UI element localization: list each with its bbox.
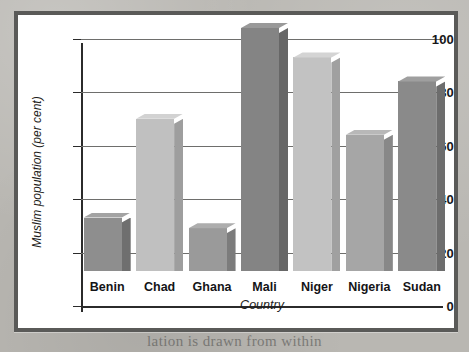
- bar-benin[interactable]: [84, 218, 131, 271]
- bar-3d-body: [241, 28, 288, 271]
- bar-side-face: [384, 135, 393, 271]
- bar-nigeria[interactable]: [346, 135, 393, 271]
- bar-side-face: [279, 28, 288, 271]
- x-axis-title: Country: [81, 298, 443, 312]
- bar-front-face: [293, 57, 331, 271]
- bar-ghana[interactable]: [189, 228, 236, 271]
- bar-mali[interactable]: [241, 28, 288, 271]
- bar-front-face: [241, 28, 279, 271]
- bar-side-face: [174, 119, 183, 271]
- x-tick-label-nigeria: Nigeria: [343, 280, 395, 294]
- page-bleed-text: lation is drawn from within: [0, 333, 469, 352]
- bar-front-face: [346, 135, 384, 271]
- bar-3d-body: [136, 119, 183, 271]
- bars-group: BeninChadGhanaMaliNigerNigeriaSudan: [81, 15, 443, 328]
- y-tick-40: [73, 199, 81, 200]
- x-tick-label-niger: Niger: [291, 280, 343, 294]
- x-tick-label-sudan: Sudan: [396, 280, 448, 294]
- page-background: 020406080100 Muslim population (per cent…: [0, 0, 469, 352]
- y-tick-100: [73, 39, 81, 40]
- bar-chad[interactable]: [136, 119, 183, 271]
- bar-front-face: [84, 218, 122, 271]
- bar-sudan[interactable]: [398, 81, 445, 271]
- x-tick-label-chad: Chad: [133, 280, 185, 294]
- y-tick-60: [73, 146, 81, 147]
- y-tick-20: [73, 253, 81, 254]
- bar-niger[interactable]: [293, 57, 340, 271]
- x-tick-label-ghana: Ghana: [186, 280, 238, 294]
- bar-3d-body: [84, 218, 131, 271]
- bar-side-face: [122, 218, 131, 271]
- y-axis-title: Muslim population (per cent): [30, 67, 44, 277]
- bar-3d-body: [189, 228, 236, 271]
- bar-front-face: [136, 119, 174, 271]
- bar-side-face: [436, 81, 445, 271]
- bar-front-face: [398, 81, 436, 271]
- y-tick-80: [73, 92, 81, 93]
- bar-3d-body: [293, 57, 340, 271]
- y-tick-0: [73, 306, 81, 307]
- bar-3d-body: [346, 135, 393, 271]
- bar-side-face: [331, 57, 340, 271]
- bar-side-face: [227, 228, 236, 271]
- bar-front-face: [189, 228, 227, 271]
- x-tick-label-mali: Mali: [238, 280, 290, 294]
- x-tick-label-benin: Benin: [81, 280, 133, 294]
- bar-3d-body: [398, 81, 445, 271]
- chart-figure-frame: 020406080100 Muslim population (per cent…: [14, 11, 458, 332]
- plot-area: 020406080100 Muslim population (per cent…: [18, 15, 454, 328]
